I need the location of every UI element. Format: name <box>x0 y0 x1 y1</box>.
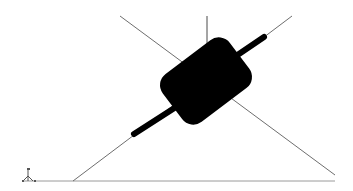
3d-viewport[interactable] <box>0 0 353 191</box>
